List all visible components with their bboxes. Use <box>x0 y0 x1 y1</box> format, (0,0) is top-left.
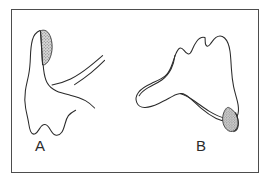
tooth-b-outline <box>136 36 238 121</box>
panel-label-b: B <box>196 138 206 153</box>
figure-root: A B <box>0 0 272 183</box>
tooth-diagram-a <box>25 30 105 135</box>
tooth-diagram-b <box>136 36 238 131</box>
panel-label-a: A <box>35 138 45 153</box>
tooth-a-root-inner-line <box>75 60 105 84</box>
figure-drawing-canvas <box>0 0 272 183</box>
